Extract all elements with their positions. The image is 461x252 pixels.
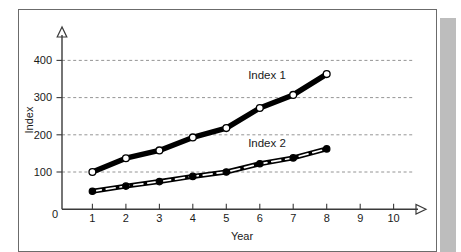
line-chart: 400 300 200 100 0 1 2 3 4 5 6 7 8 9 10 Y… <box>0 0 461 252</box>
x-tick-label: 10 <box>387 212 399 224</box>
data-point <box>257 161 263 167</box>
data-point <box>290 155 296 161</box>
y-tick-label: 400 <box>34 54 52 66</box>
y-tick-label: 100 <box>34 166 52 178</box>
x-tick-label: 5 <box>223 212 229 224</box>
data-point <box>89 188 95 194</box>
data-point <box>89 169 96 176</box>
data-point <box>290 92 297 99</box>
figure-root: 400 300 200 100 0 1 2 3 4 5 6 7 8 9 10 Y… <box>0 0 461 252</box>
series-label-index-1: Index 1 <box>248 69 286 81</box>
x-tick-label: 4 <box>190 212 196 224</box>
data-point <box>190 173 196 179</box>
x-tick-label: 9 <box>357 212 363 224</box>
series-label-index-2: Index 2 <box>248 137 286 149</box>
data-point <box>156 147 163 154</box>
x-tick-label: 8 <box>324 212 330 224</box>
data-point <box>223 125 230 132</box>
y-axis-title: Index <box>23 106 35 133</box>
x-tick-label: 1 <box>89 212 95 224</box>
x-tick-label: 3 <box>156 212 162 224</box>
data-point <box>324 146 330 152</box>
data-point <box>323 71 330 78</box>
data-point <box>223 169 229 175</box>
data-point <box>123 183 129 189</box>
x-axis-title: Year <box>231 230 254 242</box>
y-tick-labels: 400 300 200 100 0 <box>34 54 58 219</box>
x-tick-labels: 1 2 3 4 5 6 7 8 9 10 <box>89 212 399 224</box>
data-point <box>156 178 162 184</box>
y-tick-label: 200 <box>34 129 52 141</box>
data-point <box>123 155 130 162</box>
gridlines <box>62 60 414 172</box>
x-axis <box>62 204 426 214</box>
y-tick-label-zero: 0 <box>52 208 58 220</box>
series-index-2 <box>89 146 330 195</box>
data-point <box>189 134 196 141</box>
data-point <box>256 105 263 112</box>
x-tick-label: 7 <box>290 212 296 224</box>
y-axis <box>57 27 67 209</box>
x-tick-label: 6 <box>257 212 263 224</box>
y-tick-label: 300 <box>34 91 52 103</box>
x-tick-label: 2 <box>123 212 129 224</box>
